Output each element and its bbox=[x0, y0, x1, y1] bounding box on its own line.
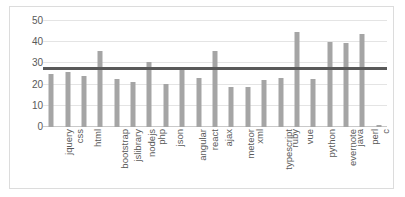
category-axis-tick: vue bbox=[289, 129, 305, 187]
category-axis-tick-label: ajax bbox=[224, 112, 234, 129]
category-axis-tick: css bbox=[59, 129, 75, 187]
category-axis-tick: ajax bbox=[207, 129, 223, 187]
category-axis-tick: bootstrap bbox=[92, 129, 108, 187]
category-axis-tick: jslibrary bbox=[109, 129, 125, 187]
category-axis-tick: php bbox=[141, 129, 157, 187]
average-reference-line bbox=[43, 67, 387, 70]
category-axis-tick: evernote bbox=[321, 129, 337, 187]
category-axis-tick-label: angular bbox=[198, 97, 208, 129]
category-axis-tick: c bbox=[371, 129, 387, 187]
category-axis-tick-label: bootstrap bbox=[120, 89, 130, 129]
category-axis-tick: typescript bbox=[256, 129, 272, 187]
value-axis: 01020304050 bbox=[19, 21, 43, 127]
category-axis-tick-label: meteor bbox=[246, 99, 256, 129]
category-axis-tick: nodejs bbox=[125, 129, 141, 187]
category-axis-tick: ruby bbox=[272, 129, 288, 187]
category-axis-tick-label: c bbox=[381, 124, 391, 129]
category-axis-tick-label: json bbox=[175, 112, 185, 129]
value-axis-tick-label: 10 bbox=[32, 101, 43, 111]
value-axis-tick-label: 40 bbox=[32, 37, 43, 47]
category-axis: jquerycsshtmlbootstrapjslibrarynodejsphp… bbox=[43, 129, 387, 187]
category-axis-tick-label: html bbox=[93, 111, 103, 129]
bar-slot bbox=[305, 21, 321, 127]
category-axis-tick: java bbox=[338, 129, 354, 187]
bar-slot bbox=[256, 21, 272, 127]
category-axis-tick: angular bbox=[174, 129, 190, 187]
category-axis-tick-label: perl bbox=[370, 113, 380, 129]
category-axis-tick: xml bbox=[240, 129, 256, 187]
bar-slot bbox=[43, 21, 59, 127]
category-axis-tick: html bbox=[76, 129, 92, 187]
category-axis-tick-label: php bbox=[157, 113, 167, 129]
bar-slot bbox=[76, 21, 92, 127]
category-axis-tick-label: ruby bbox=[290, 111, 300, 129]
category-axis-tick: json bbox=[158, 129, 174, 187]
value-axis-tick-label: 30 bbox=[32, 58, 43, 68]
bar[interactable] bbox=[114, 79, 119, 127]
category-axis-tick-label: vue bbox=[305, 114, 315, 129]
bar[interactable] bbox=[49, 74, 54, 127]
category-axis-tick-label: jquery bbox=[64, 103, 74, 129]
value-axis-tick-label: 20 bbox=[32, 80, 43, 90]
category-axis-tick-label: jslibrary bbox=[133, 96, 143, 129]
category-axis-tick-label: java bbox=[355, 112, 365, 129]
category-axis-tick: python bbox=[305, 129, 321, 187]
value-axis-tick-label: 50 bbox=[32, 16, 43, 26]
category-axis-tick: perl bbox=[354, 129, 370, 187]
bar[interactable] bbox=[278, 78, 283, 127]
category-axis-tick: react bbox=[190, 129, 206, 187]
category-axis-tick-label: css bbox=[75, 115, 85, 129]
category-axis-tick-label: react bbox=[209, 108, 219, 129]
category-axis-tick-label: xml bbox=[255, 114, 265, 129]
bar-slot bbox=[371, 21, 387, 127]
category-axis-tick: meteor bbox=[223, 129, 239, 187]
category-axis-tick-label: nodejs bbox=[147, 101, 157, 129]
bar-slot bbox=[158, 21, 174, 127]
chart-container: 01020304050 jquerycsshtmlbootstrapjslibr… bbox=[9, 6, 394, 189]
category-axis-tick-label: python bbox=[328, 100, 338, 129]
category-axis-tick: jquery bbox=[43, 129, 59, 187]
